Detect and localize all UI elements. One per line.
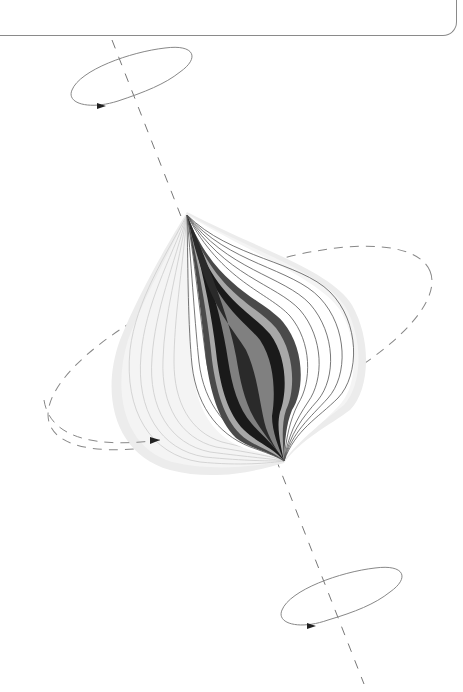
teardrop-body bbox=[112, 212, 366, 475]
diagram-canvas bbox=[0, 0, 463, 692]
top-rotation-ellipse bbox=[71, 47, 192, 109]
bottom-rotation-ellipse bbox=[281, 567, 402, 629]
